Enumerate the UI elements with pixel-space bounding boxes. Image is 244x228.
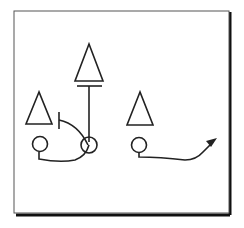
play-diagram <box>0 0 244 228</box>
frame-border <box>14 11 229 213</box>
